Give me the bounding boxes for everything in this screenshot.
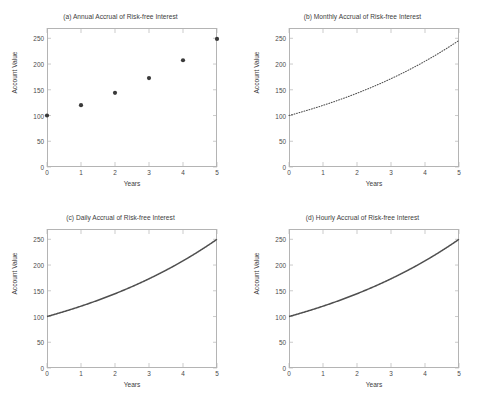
x-tick-label: 1 [314, 370, 332, 377]
subplot-a-xlabel: Years [47, 180, 217, 187]
data-point-marker [113, 91, 117, 95]
x-tick-label: 0 [280, 169, 298, 176]
series-line [289, 40, 459, 115]
x-tick-label: 0 [38, 370, 56, 377]
subplot-b-ylabel: Account Value [253, 38, 260, 108]
x-tick-label: 5 [450, 370, 468, 377]
x-tick-label: 1 [72, 370, 90, 377]
y-tick-label: 150 [264, 287, 286, 294]
subplot-d-xlabel: Years [289, 381, 459, 388]
subplot-a-ylabel: Account Value [11, 38, 18, 108]
y-tick-label: 50 [264, 339, 286, 346]
x-tick-label: 3 [140, 370, 158, 377]
subplot-a-title: (a) Annual Accrual of Risk-free Interest [0, 13, 241, 20]
subplot-c-ylabel: Account Value [11, 239, 18, 309]
x-tick-label: 2 [106, 370, 124, 377]
y-tick-label: 100 [264, 112, 286, 119]
x-tick-label: 2 [106, 169, 124, 176]
y-tick-label: 200 [22, 262, 44, 269]
x-tick-label: 4 [416, 370, 434, 377]
subplot-d-data-layer [289, 229, 459, 368]
y-tick-label: 150 [22, 287, 44, 294]
figure-canvas: (a) Annual Accrual of Risk-free Interest… [0, 0, 483, 402]
x-tick-label: 3 [382, 169, 400, 176]
x-tick-label: 2 [348, 169, 366, 176]
y-tick-label: 250 [264, 35, 286, 42]
x-tick-label: 1 [72, 169, 90, 176]
subplot-d-ylabel: Account Value [253, 239, 260, 309]
y-tick-label: 100 [22, 313, 44, 320]
data-point-marker [215, 37, 219, 41]
x-tick-label: 4 [174, 370, 192, 377]
y-tick-label: 50 [264, 138, 286, 145]
y-tick-label: 200 [22, 61, 44, 68]
x-tick-label: 3 [382, 370, 400, 377]
data-point-marker [79, 103, 83, 107]
subplot-b-title: (b) Monthly Accrual of Risk-free Interes… [242, 13, 483, 20]
x-tick-label: 5 [208, 169, 226, 176]
subplot-b-xlabel: Years [289, 180, 459, 187]
subplot-d-title: (d) Hourly Accrual of Risk-free Interest [242, 214, 483, 221]
subplot-b-data-layer [289, 28, 459, 167]
subplot-c-title: (c) Daily Accrual of Risk-free Interest [0, 214, 241, 221]
y-tick-label: 200 [264, 61, 286, 68]
subplot-c-y-axis: 050100150200250 [18, 229, 44, 368]
x-tick-label: 0 [280, 370, 298, 377]
y-tick-label: 50 [22, 138, 44, 145]
y-tick-label: 150 [264, 86, 286, 93]
subplot-b: (b) Monthly Accrual of Risk-free Interes… [242, 0, 483, 201]
x-tick-label: 5 [208, 370, 226, 377]
data-point-marker [181, 58, 185, 62]
y-tick-label: 250 [22, 236, 44, 243]
subplot-d: (d) Hourly Accrual of Risk-free Interest… [242, 201, 483, 402]
y-tick-label: 50 [22, 339, 44, 346]
y-tick-label: 100 [264, 313, 286, 320]
data-point-marker [147, 76, 151, 80]
subplot-a-y-axis: 050100150200250 [18, 28, 44, 167]
subplot-c: (c) Daily Accrual of Risk-free Interest … [0, 201, 241, 402]
x-tick-label: 3 [140, 169, 158, 176]
subplot-c-data-layer [47, 229, 217, 368]
data-point-marker [45, 113, 49, 117]
y-tick-label: 150 [22, 86, 44, 93]
x-tick-label: 1 [314, 169, 332, 176]
y-tick-label: 250 [264, 236, 286, 243]
x-tick-label: 0 [38, 169, 56, 176]
series-line [289, 239, 459, 316]
y-tick-label: 100 [22, 112, 44, 119]
y-tick-label: 200 [264, 262, 286, 269]
y-tick-label: 250 [22, 35, 44, 42]
x-tick-label: 4 [416, 169, 434, 176]
subplot-a-data-layer [47, 28, 217, 167]
x-tick-label: 5 [450, 169, 468, 176]
x-tick-label: 4 [174, 169, 192, 176]
subplot-d-y-axis: 050100150200250 [260, 229, 286, 368]
subplot-a: (a) Annual Accrual of Risk-free Interest… [0, 0, 241, 201]
subplot-b-y-axis: 050100150200250 [260, 28, 286, 167]
x-tick-label: 2 [348, 370, 366, 377]
subplot-c-xlabel: Years [47, 381, 217, 388]
series-line [47, 239, 217, 316]
